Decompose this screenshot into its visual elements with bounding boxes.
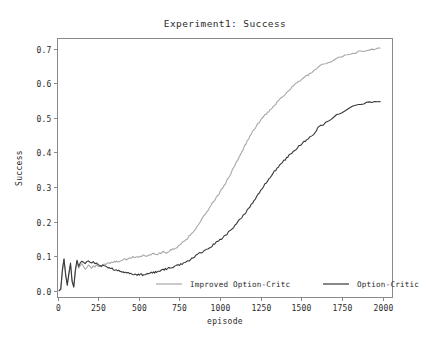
y-axis-label: Success — [15, 150, 24, 186]
x-tick-label: 2000 — [373, 304, 393, 313]
x-tick-label: 250 — [91, 304, 106, 313]
x-tick-label: 750 — [172, 304, 187, 313]
legend-label-1: Improved Option-Critc — [190, 280, 290, 289]
y-tick-label: 0.7 — [36, 46, 51, 55]
y-tick-label: 0.0 — [36, 288, 51, 297]
x-axis-label: episode — [207, 317, 243, 326]
chart-title: Experiment1: Success — [164, 18, 286, 29]
legend-label-2: Option-Critic — [357, 280, 419, 289]
x-tick-label: 1000 — [210, 304, 230, 313]
y-tick-label: 0.2 — [36, 219, 51, 228]
x-tick-label: 0 — [56, 304, 61, 313]
chart-figure: Experiment1: Success 0.00.10.20.30.40.50… — [0, 0, 421, 343]
y-tick-label: 0.1 — [36, 253, 51, 262]
y-tick-label: 0.4 — [36, 149, 51, 158]
x-tick-label: 1250 — [251, 304, 271, 313]
x-tick-label: 1750 — [332, 304, 352, 313]
line-chart-canvas: Experiment1: Success 0.00.10.20.30.40.50… — [0, 0, 421, 343]
x-tick-label: 1500 — [291, 304, 311, 313]
chart-legend: Improved Option-CritcOption-Critic — [156, 280, 419, 289]
y-tick-label: 0.3 — [36, 184, 51, 193]
y-tick-label: 0.6 — [36, 80, 51, 89]
x-tick-label: 500 — [132, 304, 147, 313]
y-tick-label: 0.5 — [36, 115, 51, 124]
